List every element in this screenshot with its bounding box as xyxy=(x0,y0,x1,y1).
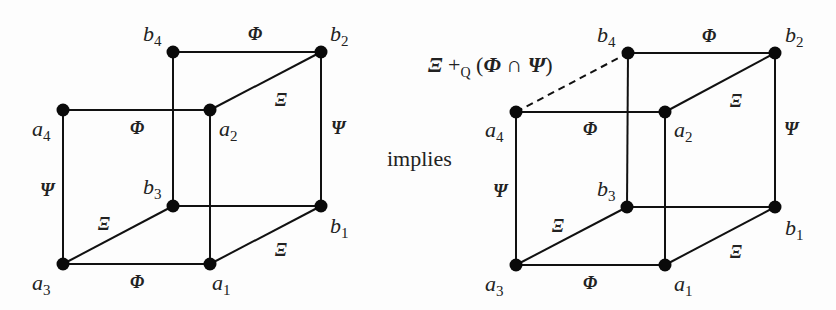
left-vertex-a1 xyxy=(204,258,217,271)
left-edge-label-a3-a1: Φ xyxy=(130,272,144,292)
right-edge-label-a4-a3: Ψ xyxy=(493,181,509,201)
right-vertex-label-a1: a1 xyxy=(674,271,693,299)
right-vertex-a4 xyxy=(510,106,523,119)
open-paren: ( xyxy=(471,52,484,77)
left-edge-label-b4-b2: Φ xyxy=(248,24,262,44)
phi-symbol: Φ xyxy=(483,52,500,77)
right-vertex-b4 xyxy=(622,47,635,60)
left-edge-a1-b1 xyxy=(210,206,321,264)
xi-symbol: Ξ xyxy=(428,52,443,77)
left-vertex-label-b3: b3 xyxy=(143,174,162,202)
left-cube: ΦΦΦΨΨΞΞΞa1a2a3a4b1b2b3b4 xyxy=(32,21,349,298)
left-vertex-a3 xyxy=(57,258,70,271)
left-vertex-label-a2: a2 xyxy=(219,116,238,144)
left-vertex-a2 xyxy=(204,104,217,117)
left-edge-label-b2-b1: Ψ xyxy=(331,118,347,138)
right-vertex-label-b2: b2 xyxy=(785,22,804,50)
cube-implication-diagram: ΦΦΦΨΨΞΞΞa1a2a3a4b1b2b3b4 ΦΦΦΨΨΞΞΞa1a2a3a… xyxy=(0,0,836,310)
right-edge-a2-b2 xyxy=(665,53,775,112)
right-edge-label-a2-b2: Ξ xyxy=(730,91,742,111)
right-vertex-a3 xyxy=(510,259,523,272)
left-vertex-label-b4: b4 xyxy=(143,21,162,49)
q-subscript: Q xyxy=(460,65,470,80)
right-edge-label-b4-b2: Φ xyxy=(702,26,716,46)
implies-text: implies xyxy=(387,146,452,171)
left-vertex-b1 xyxy=(315,200,328,213)
left-vertex-label-b1: b1 xyxy=(330,213,349,241)
right-edge-a3-b3 xyxy=(516,207,627,265)
right-vertex-b3 xyxy=(621,201,634,214)
psi-symbol: Ψ xyxy=(528,52,547,77)
left-vertex-b4 xyxy=(167,46,180,59)
left-vertex-label-a4: a4 xyxy=(32,116,51,144)
left-vertex-a4 xyxy=(57,104,70,117)
right-vertex-label-b4: b4 xyxy=(597,22,616,50)
left-vertex-b3 xyxy=(167,200,180,213)
right-edge-label-a4-a2: Φ xyxy=(583,119,597,139)
right-vertex-label-b3: b3 xyxy=(597,176,616,204)
right-vertex-b2 xyxy=(769,47,782,60)
left-edge-label-a1-b1: Ξ xyxy=(275,240,287,260)
left-edge-a2-b2 xyxy=(210,52,321,110)
right-edge-b4-b3 xyxy=(627,53,628,207)
right-vertex-a1 xyxy=(659,259,672,272)
right-edge-label-a1-b1: Ξ xyxy=(730,242,742,262)
left-edge-a3-b3 xyxy=(63,206,173,264)
right-edge-label-a3-a1: Φ xyxy=(583,273,597,293)
right-vertex-label-a3: a3 xyxy=(485,271,504,299)
left-edge-label-a2-b2: Ξ xyxy=(275,90,287,110)
right-edge-label-b2-b1: Ψ xyxy=(784,119,800,139)
left-vertex-label-a3: a3 xyxy=(32,270,51,298)
right-vertex-a2 xyxy=(659,106,672,119)
left-edge-label-a3-b3: Ξ xyxy=(98,214,110,234)
left-edge-label-a4-a2: Φ xyxy=(130,118,144,138)
dashed-edge-label: Ξ +Q (Φ ∩ Ψ) xyxy=(428,52,553,80)
intersection-operator: ∩ xyxy=(501,52,528,77)
left-edge-label-a4-a3: Ψ xyxy=(40,180,56,200)
diagram-canvas: ΦΦΦΨΨΞΞΞa1a2a3a4b1b2b3b4 ΦΦΦΨΨΞΞΞa1a2a3a… xyxy=(0,0,836,310)
left-vertex-label-a1: a1 xyxy=(212,270,231,298)
left-vertex-b2 xyxy=(315,46,328,59)
right-edge-a1-b1 xyxy=(665,207,775,265)
left-vertex-label-b2: b2 xyxy=(330,21,349,49)
right-edge-label-a3-b3: Ξ xyxy=(552,216,564,236)
right-vertex-label-a2: a2 xyxy=(674,117,693,145)
right-vertex-label-a4: a4 xyxy=(485,117,504,145)
close-paren: ) xyxy=(545,52,552,77)
plus-operator: + xyxy=(443,52,461,77)
right-vertex-b1 xyxy=(769,201,782,214)
right-vertex-label-b1: b1 xyxy=(785,215,804,243)
